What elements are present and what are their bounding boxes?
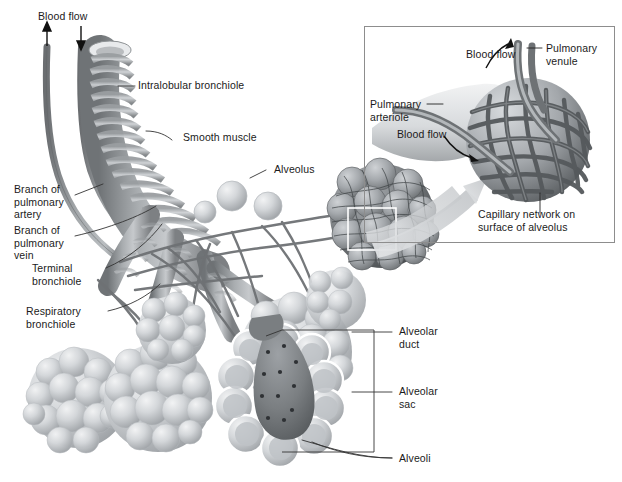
label-blood-flow-main: Blood flow: [38, 10, 88, 23]
label-terminal-bronchiole: Terminal bronchiole: [32, 262, 82, 287]
label-alveolus: Alveolus: [274, 163, 315, 176]
intralobular-bronchiole: [89, 41, 219, 272]
label-pulmonary-arteriole: Pulmonary arteriole: [370, 98, 421, 123]
label-respiratory-bronchiole: Respiratory bronchiole: [26, 305, 81, 330]
label-intralobular-bronchiole: Intralobular bronchiole: [138, 79, 244, 92]
respiratory-anatomy-figure: Blood flow Intralobular bronchiole Smoot…: [0, 0, 622, 482]
label-alveolar-sac: Alveolar sac: [399, 385, 438, 410]
label-pulmonary-venule: Pulmonary venule: [546, 42, 597, 67]
label-inset-blood-flow-in: Blood flow: [397, 128, 447, 141]
label-alveoli: Alveoli: [399, 452, 431, 465]
label-branch-pulmonary-vein: Branch of pulmonary vein: [14, 224, 64, 262]
label-inset-blood-flow-out: Blood flow: [466, 48, 516, 61]
alveolus-highlight: [194, 181, 282, 223]
label-alveolar-duct: Alveolar duct: [399, 325, 438, 350]
blood-flow-up-arrow: [43, 22, 51, 46]
label-branch-pulmonary-artery: Branch of pulmonary artery: [14, 183, 64, 221]
label-capillary-network-caption: Capillary network on surface of alveolus: [478, 208, 575, 233]
alveolar-cluster-far-right: [306, 267, 366, 331]
label-smooth-muscle: Smooth muscle: [183, 131, 257, 144]
